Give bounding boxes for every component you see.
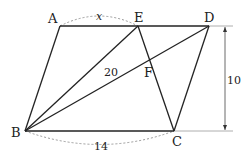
label-14: 14 xyxy=(94,140,108,153)
label-20: 20 xyxy=(104,66,118,79)
label-a: A xyxy=(47,11,58,26)
label-b: B xyxy=(11,125,21,140)
label-10: 10 xyxy=(227,74,241,87)
label-c: C xyxy=(172,134,182,149)
arrowhead-down xyxy=(223,125,227,130)
label-e: E xyxy=(134,10,144,25)
label-f: F xyxy=(144,65,153,80)
label-d: D xyxy=(204,10,214,25)
geometry-diagram: A E D B C F x 14 20 10 xyxy=(0,0,251,157)
arrowhead-up xyxy=(223,27,227,32)
label-x: x xyxy=(96,10,103,23)
diagram-canvas: A E D B C F x 14 20 10 xyxy=(0,0,251,157)
